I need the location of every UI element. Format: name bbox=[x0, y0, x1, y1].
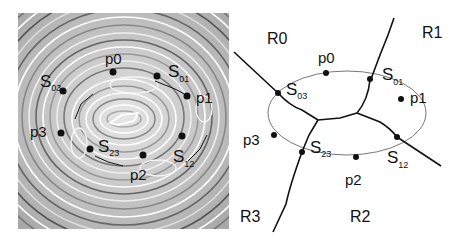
label-s01: S01 bbox=[168, 62, 189, 84]
saddle-s03-dot bbox=[275, 90, 281, 96]
saddle-s23-marker bbox=[87, 146, 94, 153]
point-p3-marker bbox=[58, 130, 65, 137]
label-p1: p1 bbox=[196, 89, 213, 106]
label-p0: p0 bbox=[318, 49, 335, 66]
saddle-s12-dot bbox=[394, 134, 400, 140]
point-p2-dot bbox=[353, 154, 359, 160]
label-s12: S12 bbox=[173, 147, 194, 169]
region-r2-label: R2 bbox=[350, 208, 371, 225]
label-p1: p1 bbox=[410, 89, 427, 106]
saddle-s01-marker bbox=[154, 73, 161, 80]
label-p2: p2 bbox=[130, 166, 147, 183]
region-r0-label: R0 bbox=[267, 30, 288, 47]
label-p0: p0 bbox=[105, 50, 122, 67]
saddle-s23-dot bbox=[299, 149, 305, 155]
label-s03: S03 bbox=[40, 72, 61, 93]
saddle-s01-dot bbox=[367, 76, 373, 82]
region-r3-label: R3 bbox=[240, 208, 261, 225]
point-p1-dot bbox=[398, 96, 404, 102]
label-p2: p2 bbox=[345, 171, 362, 188]
saddle-s12-marker bbox=[179, 133, 186, 140]
point-p1-marker bbox=[184, 93, 191, 100]
label-s01: S01 bbox=[382, 65, 403, 87]
region-boundaries bbox=[234, 18, 441, 232]
point-p0-marker bbox=[110, 69, 117, 76]
region-diagram: R0 R1 R2 R3 p0 p1 p2 p3 S03 S01 S12 S23 bbox=[230, 0, 460, 244]
label-s12: S12 bbox=[387, 148, 408, 170]
point-p2-marker bbox=[140, 152, 147, 159]
label-p3: p3 bbox=[243, 131, 260, 148]
label-s03: S03 bbox=[286, 80, 307, 101]
label-s23: S23 bbox=[310, 138, 331, 159]
label-s23: S23 bbox=[98, 137, 119, 158]
point-p3-dot bbox=[271, 132, 277, 138]
point-p0-dot bbox=[323, 70, 329, 76]
label-p3: p3 bbox=[30, 123, 47, 140]
left-panel-annotations: p0 p1 p2 p3 S03 S01 S12 S23 bbox=[0, 0, 230, 244]
region-r1-label: R1 bbox=[422, 24, 443, 41]
